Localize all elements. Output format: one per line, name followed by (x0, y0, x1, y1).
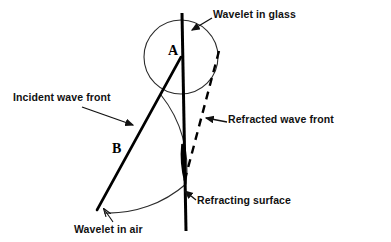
refracted-wave-front-pointer (206, 118, 227, 122)
label-refracted-wave-front: Refracted wave front (228, 114, 334, 125)
incident-wave-front-pointer (82, 107, 133, 125)
refracted-wave-front-line (184, 51, 219, 183)
refracting-surface-line (182, 13, 186, 231)
label-refracting-surface: Refracting surface (197, 195, 291, 206)
point-label-a: A (168, 44, 178, 58)
point-label-b: B (112, 142, 121, 156)
label-wavelet-in-air: Wavelet in air (74, 224, 143, 235)
wavelet-in-glass-pointer (192, 18, 212, 30)
wavelet-in-air-pointer (104, 209, 113, 222)
label-wavelet-in-glass: Wavelet in glass (213, 9, 296, 20)
label-incident-wave-front: Incident wave front (13, 92, 111, 103)
incident-wave-front-line (97, 57, 181, 210)
refraction-diagram: Wavelet in glass Incident wave front Ref… (0, 0, 391, 242)
